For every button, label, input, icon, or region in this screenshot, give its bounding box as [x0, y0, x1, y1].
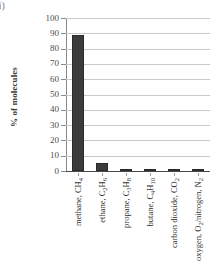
y-axis-tick-labels: 1009080706050403020100: [30, 0, 59, 263]
gridline: [66, 79, 210, 80]
x-tick-mark: [102, 173, 103, 176]
x-label-slot: butane, C4H10: [138, 173, 162, 263]
x-tick-label: carbon dioxide, CO2: [170, 178, 179, 248]
gridline: [66, 110, 210, 111]
x-tick-mark: [150, 173, 151, 176]
y-tick-mark: [61, 79, 66, 80]
x-tick-label: oxygen, O2/nitrogen, N2: [194, 178, 203, 261]
gridline: [66, 64, 210, 65]
bar: [144, 169, 155, 171]
bar: [192, 169, 203, 171]
y-tick-label: 30: [33, 121, 59, 130]
y-tick-label: 70: [33, 59, 59, 68]
gridline: [66, 156, 210, 157]
y-tick-mark: [61, 64, 66, 65]
y-tick-mark: [61, 140, 66, 141]
x-label-slot: carbon dioxide, CO2: [162, 173, 186, 263]
axis-baseline: [66, 171, 210, 172]
y-tick-mark: [61, 156, 66, 157]
y-tick-label: 100: [33, 14, 59, 23]
bar: [168, 169, 179, 171]
x-label-slot: methane, CH4: [66, 173, 90, 263]
plot-area: [66, 18, 210, 171]
gridline: [66, 33, 210, 34]
bar: [96, 163, 107, 171]
y-tick-label: 20: [33, 136, 59, 145]
gridline: [66, 95, 210, 96]
x-tick-mark: [78, 173, 79, 176]
y-tick-label: 50: [33, 90, 59, 99]
x-label-slot: oxygen, O2/nitrogen, N2: [186, 173, 210, 263]
gridline: [66, 18, 210, 19]
x-label-slot: ethane, C2H6: [90, 173, 114, 263]
bar-chart: % of molecules 1009080706050403020100 me…: [0, 0, 219, 263]
y-axis-title-text: % of molecules: [9, 67, 19, 127]
y-tick-mark: [61, 18, 66, 19]
y-tick-mark: [61, 33, 66, 34]
x-tick-mark: [126, 173, 127, 176]
y-tick-label: 0: [33, 167, 59, 176]
x-tick-label: butane, C4H10: [146, 178, 155, 226]
bar: [72, 35, 83, 171]
y-axis-title: % of molecules: [6, 62, 22, 132]
y-tick-mark: [61, 95, 66, 96]
x-label-slot: propane, C3H8: [114, 173, 138, 263]
y-tick-label: 90: [33, 29, 59, 38]
y-tick-mark: [61, 171, 66, 172]
y-tick-mark: [61, 110, 66, 111]
gridline: [66, 125, 210, 126]
y-tick-label: 40: [33, 105, 59, 114]
gridline: [66, 49, 210, 50]
x-axis-tick-labels: methane, CH4ethane, C2H6propane, C3H8but…: [66, 173, 210, 263]
x-tick-label: propane, C3H8: [122, 178, 131, 228]
gridline: [66, 140, 210, 141]
y-tick-label: 10: [33, 151, 59, 160]
y-tick-mark: [61, 125, 66, 126]
x-tick-mark: [174, 173, 175, 176]
y-tick-mark: [61, 49, 66, 50]
y-tick-label: 80: [33, 44, 59, 53]
bar: [120, 169, 131, 171]
x-tick-mark: [198, 173, 199, 176]
x-tick-label: methane, CH4: [74, 178, 83, 226]
y-tick-label: 60: [33, 75, 59, 84]
x-tick-label: ethane, C2H6: [98, 178, 107, 223]
